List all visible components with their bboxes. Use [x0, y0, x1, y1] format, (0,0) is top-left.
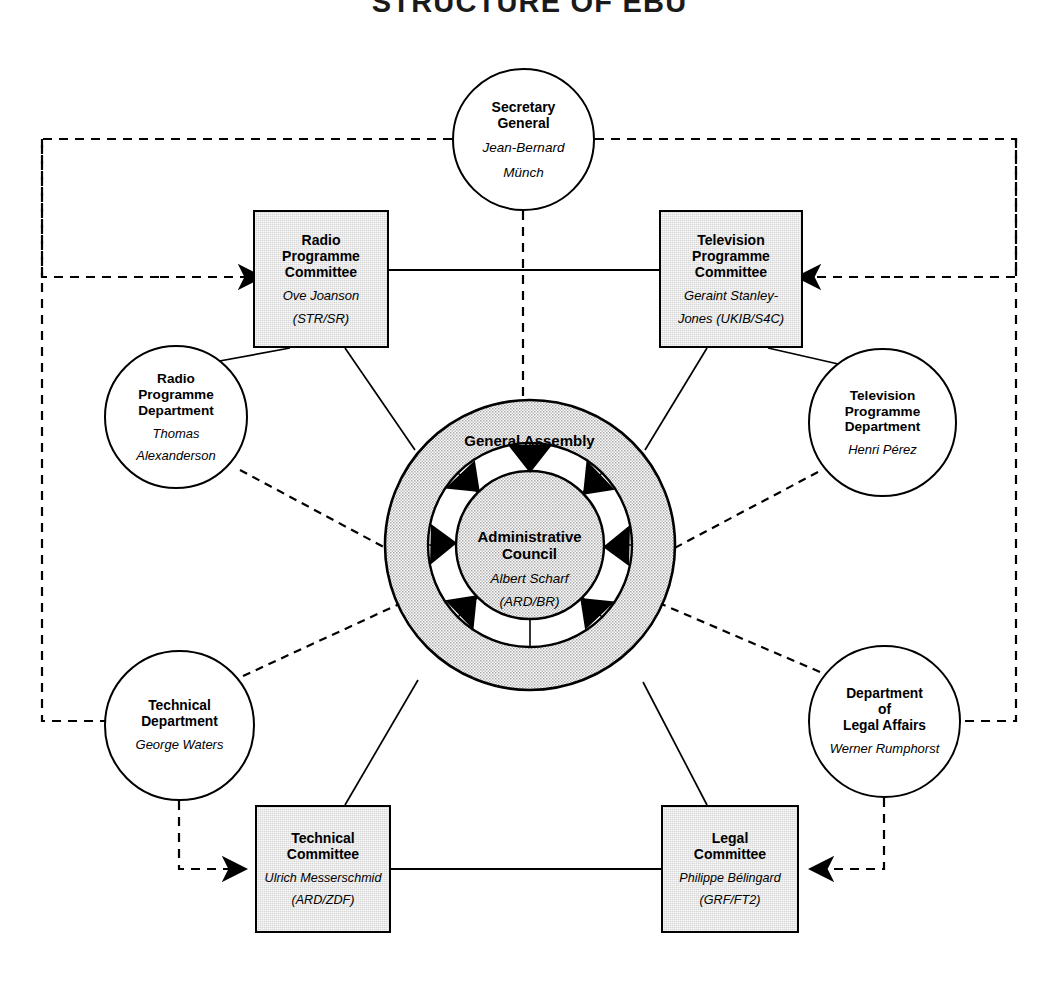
- node-title-line2: Programme: [692, 248, 770, 264]
- node-secretary-general[interactable]: Secretary General Jean-Bernard Münch: [452, 68, 595, 211]
- edge-radio-dept-to-radio-committee: [214, 348, 290, 362]
- node-title-line2: Programme: [282, 248, 360, 264]
- node-person-line1: Jean-Bernard: [483, 140, 565, 156]
- node-television-programme-committee[interactable]: Television Programme Committee Geraint S…: [659, 210, 803, 348]
- node-title-line1: Technical: [148, 698, 211, 714]
- node-person-line1: Henri Pérez: [848, 442, 917, 457]
- edge-legal-dept-to-council: [652, 600, 820, 672]
- node-title-line1: Administrative: [477, 528, 581, 545]
- node-person-line2: (ARD/BR): [500, 594, 560, 610]
- node-department-of-legal-affairs[interactable]: Department of Legal Affairs Werner Rumph…: [808, 645, 961, 798]
- node-administrative-council[interactable]: Administrative Council Albert Scharf (AR…: [452, 515, 607, 623]
- node-title-line1: Legal: [712, 830, 749, 846]
- node-title-line1: Technical: [291, 830, 355, 846]
- node-person-line2: Münch: [503, 165, 544, 181]
- node-person-line1: Thomas: [153, 426, 200, 441]
- node-title-line1: Secretary: [492, 99, 556, 115]
- edge-sg-to-radio-committee: [42, 139, 452, 277]
- node-title-line3: Committee: [285, 264, 357, 280]
- node-person-line1: Philippe Bélingard: [679, 871, 781, 886]
- node-title-line3: Department: [845, 419, 921, 435]
- node-radio-programme-committee[interactable]: Radio Programme Committee Ove Joanson (S…: [253, 210, 389, 348]
- node-title-line2: Department: [141, 714, 218, 730]
- node-person-line2: Jones (UKIB/S4C): [675, 311, 787, 326]
- node-person-line1: George Waters: [136, 737, 224, 752]
- node-person-line2: (STR/SR): [293, 311, 349, 326]
- node-title-line2: General: [497, 115, 549, 131]
- node-title-line2: Programme: [845, 404, 921, 420]
- general-assembly-label: General Assembly: [399, 432, 660, 449]
- node-person-line2: (GRF/FT2): [700, 893, 761, 908]
- node-radio-programme-department[interactable]: Radio Programme Department Thomas Alexan…: [104, 345, 248, 489]
- node-title-line2: Committee: [694, 846, 766, 862]
- node-title-line1: Radio: [302, 232, 341, 248]
- node-title-line2: of: [878, 702, 891, 718]
- node-title-line1: Radio: [157, 371, 195, 387]
- node-title-line3: Department: [138, 403, 214, 419]
- diagram-page: STRUCTURE OF EBU: [0, 0, 1059, 989]
- edge-legal-committee-to-assembly: [643, 682, 707, 805]
- node-television-programme-department[interactable]: Television Programme Department Henri Pé…: [808, 348, 957, 497]
- node-person-line1: Ove Joanson: [283, 288, 360, 303]
- edge-legal-dept-to-legal-committee: [810, 798, 884, 869]
- node-legal-committee[interactable]: Legal Committee Philippe Bélingard (GRF/…: [661, 805, 799, 933]
- edge-technical-dept-to-council: [243, 600, 408, 676]
- node-title-line3: Legal Affairs: [843, 718, 926, 734]
- node-title-line1: Television: [697, 232, 764, 248]
- node-title-line2: Council: [502, 545, 557, 562]
- node-person-line2: (ARD/ZDF): [292, 893, 355, 908]
- node-person-line2: Alexanderson: [136, 448, 216, 463]
- node-title-line1: Television: [850, 388, 915, 404]
- node-person-line1: Werner Rumphorst: [830, 741, 940, 756]
- node-person-line1: Geraint Stanley-: [681, 288, 781, 303]
- edge-technical-dept-to-technical-committee: [179, 801, 246, 869]
- node-person-line1: Albert Scharf: [490, 571, 568, 587]
- edge-radio-dept-to-council: [240, 470, 408, 560]
- node-technical-committee[interactable]: Technical Committee Ulrich Messerschmid …: [255, 805, 391, 933]
- node-technical-department[interactable]: Technical Department George Waters: [104, 650, 255, 801]
- node-title-line3: Committee: [695, 264, 767, 280]
- edge-tv-dept-to-council: [652, 472, 818, 560]
- edge-technical-committee-to-assembly: [345, 680, 418, 805]
- node-title-line1: Department: [846, 686, 923, 702]
- node-title-line2: Committee: [287, 846, 359, 862]
- node-person-line1: Ulrich Messerschmid: [265, 871, 382, 886]
- node-title-line2: Programme: [138, 387, 214, 403]
